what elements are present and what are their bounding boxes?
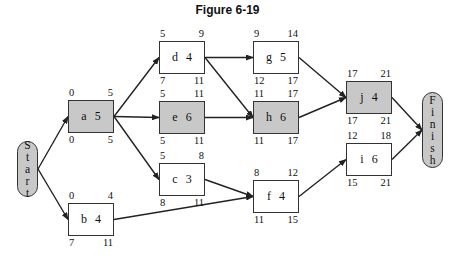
node-lf-value: 11 (190, 198, 204, 209)
activity-node-c: c3 (159, 163, 205, 196)
edge-c-f (205, 180, 253, 197)
activity-node-a: a5 (68, 100, 114, 133)
activity-duration: 5 (280, 50, 286, 65)
activity-node-f: f4 (253, 180, 299, 213)
activity-node-i: i6 (346, 143, 392, 176)
activity-label: d (172, 50, 178, 65)
node-lf-value: 15 (284, 215, 298, 226)
node-ef-value: 4 (99, 191, 113, 202)
activity-node-e: e6 (159, 101, 205, 134)
finish-letter: F (429, 94, 435, 106)
edge-a-d (114, 58, 159, 117)
edge-g-j (299, 58, 346, 98)
activity-label: g (266, 50, 272, 65)
node-es-value: 8 (254, 168, 259, 179)
node-ls-value: 8 (160, 198, 165, 209)
node-lf-value: 17 (284, 136, 298, 147)
node-ls-value: 12 (254, 76, 265, 87)
activity-duration: 6 (280, 110, 286, 125)
activity-duration: 4 (95, 212, 101, 227)
activity-duration: 3 (186, 172, 192, 187)
activity-label: h (266, 110, 272, 125)
start-letter: r (26, 175, 30, 187)
node-es-value: 17 (347, 69, 358, 80)
finish-letter: n (430, 118, 436, 130)
node-es-value: 5 (160, 29, 165, 40)
node-ls-value: 17 (347, 116, 358, 127)
edge-a-e (114, 117, 159, 118)
start-letter: t (26, 151, 29, 163)
node-lf-value: 21 (377, 178, 391, 189)
node-es-value: 9 (254, 29, 259, 40)
node-ef-value: 9 (190, 29, 204, 40)
node-ef-value: 17 (284, 89, 298, 100)
activity-label: e (172, 110, 177, 125)
edge-j-Finish (392, 98, 422, 131)
edge-Start-b (38, 169, 68, 220)
node-ef-value: 12 (284, 168, 298, 179)
node-es-value: 5 (160, 89, 165, 100)
node-lf-value: 11 (190, 76, 204, 87)
activity-label: a (81, 109, 86, 124)
activity-label: b (81, 212, 87, 227)
activity-duration: 4 (186, 50, 192, 65)
node-ls-value: 7 (69, 238, 74, 249)
activity-duration: 6 (372, 152, 378, 167)
node-lf-value: 17 (284, 76, 298, 87)
start-letter: a (25, 163, 30, 175)
edge-i-Finish (392, 130, 422, 160)
node-ef-value: 18 (377, 131, 391, 142)
node-lf-value: 11 (99, 238, 113, 249)
node-lf-value: 5 (99, 135, 113, 146)
node-es-value: 11 (254, 89, 264, 100)
node-ls-value: 11 (254, 215, 264, 226)
activity-node-d: d4 (159, 41, 205, 74)
node-ef-value: 14 (284, 29, 298, 40)
activity-label: f (267, 189, 271, 204)
node-ef-value: 21 (377, 69, 391, 80)
node-ls-value: 5 (160, 136, 165, 147)
activity-node-b: b4 (68, 203, 114, 236)
activity-duration: 5 (95, 109, 101, 124)
node-lf-value: 21 (377, 116, 391, 127)
node-lf-value: 11 (190, 136, 204, 147)
node-es-value: 12 (347, 131, 358, 142)
activity-label: j (360, 90, 363, 105)
node-es-value: 5 (160, 151, 165, 162)
node-es-value: 0 (69, 191, 74, 202)
edge-b-f (114, 197, 253, 220)
activity-label: c (172, 172, 177, 187)
finish-letter: i (431, 106, 434, 118)
edge-Start-a (38, 117, 68, 170)
activity-node-g: g5 (253, 41, 299, 74)
activity-node-h: h6 (253, 101, 299, 134)
finish-letter: i (431, 130, 434, 142)
node-ef-value: 8 (190, 151, 204, 162)
activity-node-j: j4 (346, 81, 392, 114)
activity-duration: 4 (372, 90, 378, 105)
node-ls-value: 7 (160, 76, 165, 87)
edge-f-i (299, 160, 346, 197)
node-ef-value: 5 (99, 88, 113, 99)
edge-d-h (205, 58, 253, 118)
node-ef-value: 11 (190, 89, 204, 100)
finish-letter: s (430, 142, 434, 154)
start-letter: S (24, 139, 30, 151)
start-node: Start (17, 141, 38, 197)
activity-duration: 6 (186, 110, 192, 125)
start-letter: t (26, 187, 29, 199)
finish-node: Finish (422, 92, 443, 168)
activity-label: i (360, 152, 363, 167)
node-ls-value: 15 (347, 178, 358, 189)
node-ls-value: 11 (254, 136, 264, 147)
node-ls-value: 0 (69, 135, 74, 146)
edge-h-j (299, 98, 346, 118)
node-es-value: 0 (69, 88, 74, 99)
finish-letter: h (430, 154, 436, 166)
activity-duration: 4 (279, 189, 285, 204)
edge-a-c (114, 117, 159, 180)
